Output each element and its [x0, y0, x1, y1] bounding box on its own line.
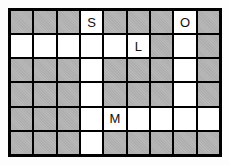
open-cell-r2c6[interactable]: L: [128, 35, 149, 57]
open-cell-r2c2[interactable]: [34, 35, 55, 57]
blocked-cell-r6c7: [151, 132, 172, 154]
open-cell-r5c4[interactable]: [81, 108, 102, 130]
blocked-cell-r1c5: [104, 11, 125, 33]
blocked-cell-r1c3: [58, 11, 79, 33]
page: SOLM: [0, 0, 230, 165]
blocked-cell-r4c5: [104, 83, 125, 105]
blocked-cell-r1c7: [151, 11, 172, 33]
blocked-cell-r6c5: [104, 132, 125, 154]
cell-letter-O: O: [180, 16, 190, 29]
blocked-cell-r3c5: [104, 59, 125, 81]
open-cell-r2c1[interactable]: [11, 35, 32, 57]
blocked-cell-r4c1: [11, 83, 32, 105]
open-cell-r5c5[interactable]: M: [104, 108, 125, 130]
open-cell-r5c8[interactable]: [174, 108, 195, 130]
blocked-cell-r5c3: [58, 108, 79, 130]
blocked-cell-r3c2: [34, 59, 55, 81]
open-cell-r5c7[interactable]: [151, 108, 172, 130]
open-cell-r6c4[interactable]: [81, 132, 102, 154]
blocked-cell-r5c2: [34, 108, 55, 130]
puzzle-grid: SOLM: [8, 8, 222, 157]
blocked-cell-r3c9: [198, 59, 219, 81]
blocked-cell-r6c8: [174, 132, 195, 154]
blocked-cell-r6c3: [58, 132, 79, 154]
blocked-cell-r6c6: [128, 132, 149, 154]
open-cell-r4c4[interactable]: [81, 83, 102, 105]
blocked-cell-r2c9: [198, 35, 219, 57]
open-cell-r2c8[interactable]: [174, 35, 195, 57]
blocked-cell-r4c2: [34, 83, 55, 105]
open-cell-r5c6[interactable]: [128, 108, 149, 130]
open-cell-r3c4[interactable]: [81, 59, 102, 81]
cell-letter-M: M: [110, 112, 121, 125]
blocked-cell-r4c7: [151, 83, 172, 105]
blocked-cell-r3c7: [151, 59, 172, 81]
blocked-cell-r1c9: [198, 11, 219, 33]
blocked-cell-r1c6: [128, 11, 149, 33]
blocked-cell-r6c9: [198, 132, 219, 154]
open-cell-r3c8[interactable]: [174, 59, 195, 81]
open-cell-r2c4[interactable]: [81, 35, 102, 57]
blocked-cell-r2c7: [151, 35, 172, 57]
open-cell-r1c4[interactable]: S: [81, 11, 102, 33]
blocked-cell-r3c1: [11, 59, 32, 81]
blocked-cell-r1c2: [34, 11, 55, 33]
blocked-cell-r5c1: [11, 108, 32, 130]
blocked-cell-r6c1: [11, 132, 32, 154]
blocked-cell-r6c2: [34, 132, 55, 154]
blocked-cell-r3c3: [58, 59, 79, 81]
blocked-cell-r1c1: [11, 11, 32, 33]
blocked-cell-r4c6: [128, 83, 149, 105]
open-cell-r4c8[interactable]: [174, 83, 195, 105]
cell-letter-S: S: [87, 16, 96, 29]
cell-letter-L: L: [135, 40, 142, 53]
open-cell-r2c5[interactable]: [104, 35, 125, 57]
blocked-cell-r4c9: [198, 83, 219, 105]
open-cell-r1c8[interactable]: O: [174, 11, 195, 33]
blocked-cell-r3c6: [128, 59, 149, 81]
open-cell-r2c3[interactable]: [58, 35, 79, 57]
open-cell-r5c9[interactable]: [198, 108, 219, 130]
blocked-cell-r4c3: [58, 83, 79, 105]
